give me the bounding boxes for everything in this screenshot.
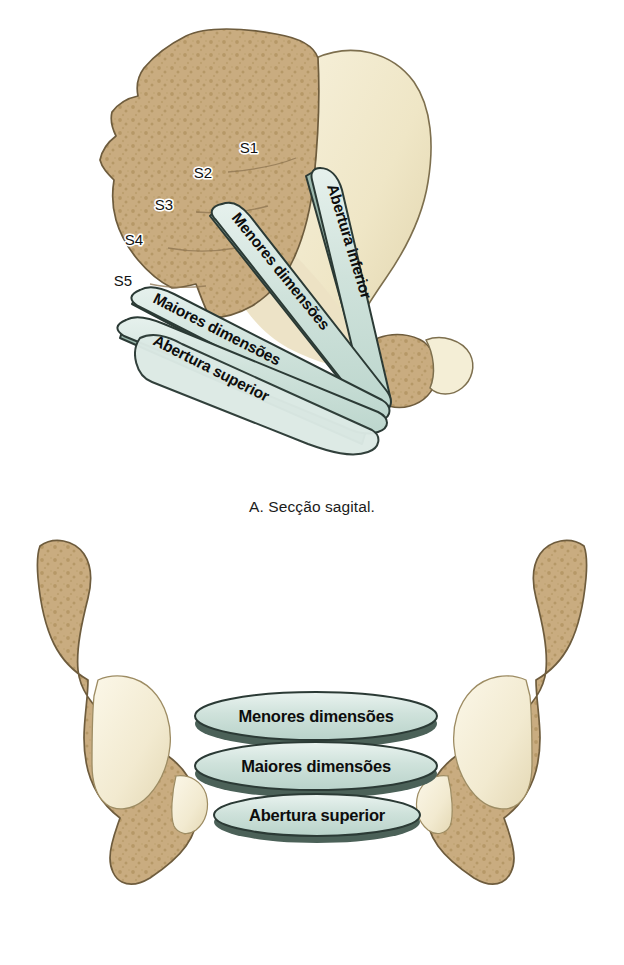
disc-label-abertura-superior: Abertura superior (249, 806, 386, 824)
figure-page: Abertura inferior Menores dimensões Maio… (0, 0, 624, 965)
vertebra-label-s2: S2 (194, 164, 212, 181)
cortical-bone-left-pubis (172, 776, 208, 834)
disc-label-maiores-dimensoes: Maiores dimensões (241, 757, 391, 775)
vertebra-label-s4: S4 (125, 231, 143, 248)
coronal-illustration: Menores dimensões Maiores dimensões Aber… (0, 530, 624, 910)
sagittal-illustration: Abertura inferior Menores dimensões Maio… (0, 0, 624, 490)
vertebra-label-s3: S3 (155, 196, 173, 213)
disc-label-menores-dimensoes: Menores dimensões (238, 707, 393, 725)
pubic-cortical-cap (426, 338, 473, 394)
caption-panel-a: A. Secção sagital. (0, 498, 624, 516)
panel-sagittal-section: Abertura inferior Menores dimensões Maio… (0, 0, 624, 530)
disc-abertura-superior: Abertura superior (214, 794, 420, 843)
disc-menores-dimensoes: Menores dimensões (195, 692, 437, 748)
vertebra-label-s5: S5 (114, 272, 132, 289)
panel-coronal-section: Menores dimensões Maiores dimensões Aber… (0, 530, 624, 965)
vertebra-label-s1: S1 (240, 139, 258, 156)
disc-maiores-dimensoes: Maiores dimensões (195, 742, 437, 798)
